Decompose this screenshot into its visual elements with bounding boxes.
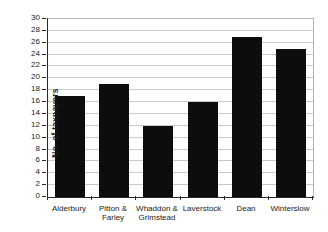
y-tick-0 [42, 196, 46, 197]
bar-laverstock [188, 102, 218, 197]
y-tick-24 [42, 54, 46, 55]
bar-dean [232, 37, 262, 197]
y-tick-label-30: 30 [22, 14, 40, 22]
y-tick-16 [42, 101, 46, 102]
y-axis-line [47, 18, 48, 198]
gridline-24 [48, 54, 313, 55]
y-tick-28 [42, 30, 46, 31]
y-tick-label-14: 14 [22, 109, 40, 117]
y-tick-14 [42, 113, 46, 114]
bar-pitton-and-farley [99, 84, 129, 197]
gridline-12 [48, 125, 313, 126]
y-tick-label-8: 8 [22, 145, 40, 153]
y-tick-12 [42, 125, 46, 126]
y-tick-label-10: 10 [22, 133, 40, 141]
y-tick-4 [42, 172, 46, 173]
y-tick-label-4: 4 [22, 168, 40, 176]
x-tick-1 [91, 196, 92, 200]
bar-winterslow [276, 49, 306, 197]
y-tick-18 [42, 89, 46, 90]
plot-area: No. of taxpayers [47, 18, 314, 198]
gridline-16 [48, 101, 313, 102]
y-tick-10 [42, 137, 46, 138]
y-tick-6 [42, 160, 46, 161]
y-axis-title: No. of taxpayers [50, 58, 60, 188]
y-tick-label-24: 24 [22, 50, 40, 58]
y-tick-label-26: 26 [22, 38, 40, 46]
gridline-6 [48, 160, 313, 161]
x-tick-0 [47, 196, 48, 200]
y-tick-label-22: 22 [22, 61, 40, 69]
y-tick-30 [42, 18, 46, 19]
y-tick-label-20: 20 [22, 73, 40, 81]
y-tick-8 [42, 149, 46, 150]
bar-whaddon-and-grimstead [143, 126, 173, 197]
gridline-22 [48, 65, 313, 66]
gridline-2 [48, 184, 313, 185]
y-tick-label-6: 6 [22, 156, 40, 164]
y-tick-label-28: 28 [22, 26, 40, 34]
y-tick-label-12: 12 [22, 121, 40, 129]
gridline-10 [48, 137, 313, 138]
x-tick-2 [135, 196, 136, 200]
y-tick-label-18: 18 [22, 85, 40, 93]
y-tick-label-0: 0 [22, 192, 40, 200]
y-tick-label-16: 16 [22, 97, 40, 105]
gridline-4 [48, 172, 313, 173]
gridline-28 [48, 30, 313, 31]
bar-chart-figure: No. of taxpayers 02468101214161820222426… [0, 0, 328, 232]
gridline-20 [48, 77, 313, 78]
x-tick-6 [312, 196, 313, 200]
y-tick-26 [42, 42, 46, 43]
gridline-26 [48, 42, 313, 43]
y-tick-20 [42, 77, 46, 78]
gridline-8 [48, 149, 313, 150]
gridline-18 [48, 89, 313, 90]
x-tick-4 [224, 196, 225, 200]
gridline-14 [48, 113, 313, 114]
y-tick-label-2: 2 [22, 180, 40, 188]
x-tick-3 [180, 196, 181, 200]
y-tick-2 [42, 184, 46, 185]
x-tick-5 [268, 196, 269, 200]
y-tick-22 [42, 65, 46, 66]
category-label-winterslow: Winterslow [262, 204, 318, 213]
